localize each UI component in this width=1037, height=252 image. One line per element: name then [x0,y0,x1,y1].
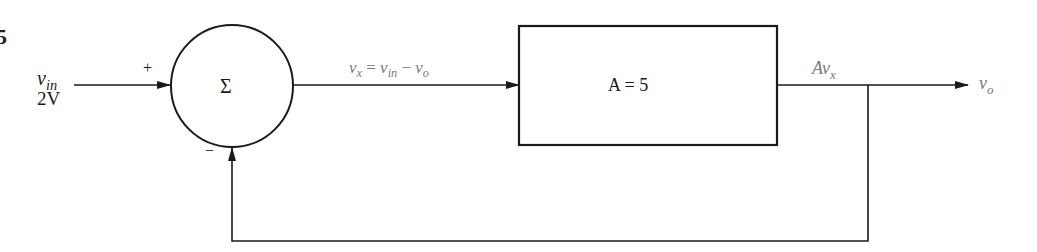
avx-prefix: Av [812,58,830,78]
block-diagram [0,0,1037,252]
error-signal-equation: vx = vin − vo [349,59,429,76]
eq-vo-sub: o [423,66,429,80]
sigma-symbol: Σ [220,76,232,96]
feedback-path [232,85,868,241]
figure-number-fragment: 5 [0,26,7,48]
plus-sign: + [143,60,152,76]
eq-vo: v [415,58,423,77]
summing-junction-circle [171,25,293,147]
output-signal-label: vo [979,74,993,92]
eq-vin: v [380,58,388,77]
eq-vx: v [349,58,357,77]
output-signal-name: v [979,73,987,93]
gain-block-label: A = 5 [608,76,648,94]
eq-minus: − [397,58,415,77]
output-signal-sub: o [987,82,993,97]
input-value-label: 2V [37,89,60,108]
input-signal-label: vin [37,68,57,88]
block-output-label: Avx [812,59,836,77]
eq-equals: = [362,58,380,77]
avx-sub: x [830,67,836,82]
eq-vin-sub: in [388,66,398,80]
minus-sign: − [205,143,214,159]
input-signal-name: v [37,67,46,89]
